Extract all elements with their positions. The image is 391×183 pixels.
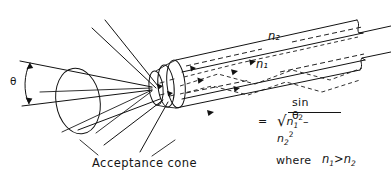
incoming-ray-lines — [78, 20, 168, 152]
ray-arrow-6 — [207, 110, 214, 116]
refractive-index-condition: n1>n2 — [322, 154, 356, 168]
acceptance-leader-right — [152, 140, 175, 156]
ferrule-tick-4 — [170, 95, 174, 96]
theta-angle-label: θ — [10, 76, 16, 87]
ray-path-zigzag-1 — [180, 68, 362, 86]
ferrule-top-link-1 — [156, 65, 166, 71]
radicand-n2-superscript: 2 — [289, 130, 294, 139]
acceptance-leader-left — [80, 140, 98, 155]
n2-axis-dash-right — [292, 27, 362, 42]
radicand-n1-subscript: 1 — [294, 121, 299, 130]
angle-arrow-top — [26, 63, 33, 69]
figure-canvas: θ Acceptance cone n₂ n₁ sin θ = √n12–n22… — [0, 0, 391, 183]
ray-arrow-3 — [249, 60, 256, 66]
radicand-n2-subscript: 2 — [284, 138, 289, 147]
ray-path-shallow-upper — [184, 37, 358, 77]
formula-equals-sign: = — [258, 115, 267, 128]
leader-line-lower-1 — [104, 100, 163, 145]
angle-arc-curve — [25, 63, 30, 104]
ferrule-bottom-link-2 — [166, 107, 176, 108]
acceptance-cone-shape — [20, 61, 152, 137]
formula-radical-expression: √n12–n22 — [277, 111, 309, 147]
ferrule-tick-1 — [160, 82, 164, 83]
acceptance-angle-arc — [25, 63, 33, 104]
label-leader-lines — [80, 140, 175, 156]
where-keyword-label: where — [276, 155, 311, 166]
fiber-continuation-lower — [362, 52, 391, 58]
fiber-connector-ferrule — [147, 59, 187, 109]
condition-n2-base: n — [344, 152, 351, 166]
cone-upper-edge — [20, 61, 152, 87]
n1-refractive-index-label: n₁ — [256, 59, 268, 71]
optical-fiber-body — [176, 20, 391, 108]
leader-line-lower-2 — [140, 102, 168, 152]
radicand-minus: – — [303, 115, 309, 128]
ray-path-zigzag-2 — [180, 80, 360, 95]
condition-n2-subscript: 2 — [351, 159, 356, 168]
internally-reflected-ray-paths — [180, 37, 362, 116]
incoming-ray-upper-1 — [92, 28, 156, 88]
condition-operator: > — [334, 152, 344, 166]
ray-arrow-1 — [231, 69, 238, 75]
acceptance-cone-label: Acceptance cone — [92, 158, 197, 170]
fiber-continuation-upper — [359, 26, 391, 33]
radical-sign-icon: √ — [277, 112, 287, 130]
radicand-n1-base: n — [287, 115, 294, 128]
cone-lower-generator — [62, 90, 152, 132]
cone-lower-edge — [22, 90, 152, 106]
radical-overbar — [288, 112, 341, 113]
fiber-broken-end-upper — [357, 20, 363, 33]
n2-refractive-index-label: n₂ — [268, 31, 280, 43]
radicand-n2-base: n — [277, 132, 284, 145]
angle-arrow-bottom — [26, 98, 33, 104]
radical-wrapper: √n12–n22 — [277, 111, 309, 147]
ray-arrow-5 — [190, 66, 196, 72]
leader-line-lower-3 — [78, 99, 160, 130]
